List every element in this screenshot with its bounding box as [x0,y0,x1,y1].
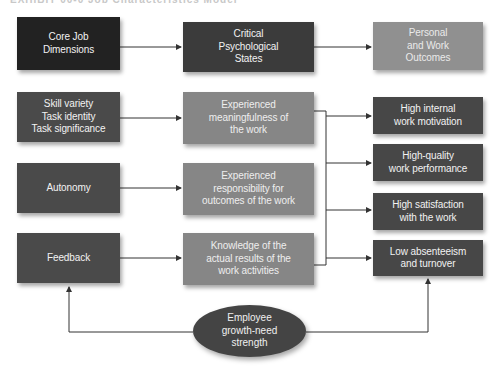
outcome-motivation: High internal work motivation [373,97,483,134]
outcome-performance: High-quality work performance [373,144,483,181]
core-job-dimensions-header: Core Job Dimensions [17,17,120,70]
growth-need-strength-moderator: Employee growth-need strength [193,305,306,357]
outcome-satisfaction: High satisfaction with the work [373,193,483,230]
outcomes-header: Personal and Work Outcomes [373,22,483,70]
state-responsibility: Experienced responsibility for outcomes … [183,163,314,215]
outcome-absenteeism: Low absenteeism and turnover [373,240,483,276]
dimension-skill-task: Skill variety Task identity Task signifi… [17,92,120,142]
dimension-feedback: Feedback [17,233,120,283]
state-knowledge-of-results: Knowledge of the actual results of the w… [183,233,314,285]
state-meaningfulness: Experienced meaningfulness of the work [183,92,314,144]
dimension-autonomy: Autonomy [17,163,120,213]
critical-states-header: Critical Psychological States [183,22,314,72]
